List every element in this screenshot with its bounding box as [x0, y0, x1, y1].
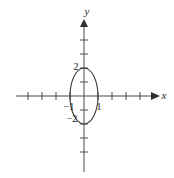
graph-figure: x y 2 −2 −1 1	[0, 0, 174, 178]
coordinate-plane-svg: x y 2 −2 −1 1	[0, 0, 174, 178]
label-x-neg1: −1	[64, 101, 75, 112]
y-axis-label: y	[84, 5, 90, 17]
x-axis-arrow-icon	[151, 92, 160, 100]
label-y-2: 2	[74, 61, 79, 72]
label-x-1: 1	[97, 101, 102, 112]
y-axis-arrow-icon	[80, 19, 88, 27]
x-axis-label: x	[161, 89, 167, 101]
label-y-neg2: −2	[67, 113, 78, 124]
